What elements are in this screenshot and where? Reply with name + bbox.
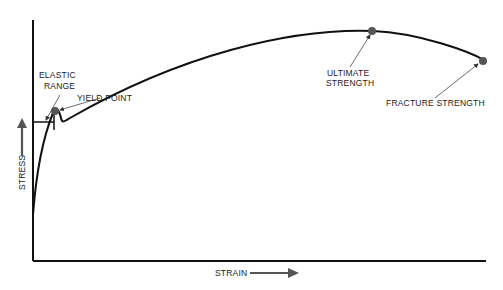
fracture-strength-arrow (435, 64, 478, 98)
y-axis-label-group: STRESS (17, 118, 27, 190)
yield-point-label: YIELD POINT (77, 93, 132, 103)
fracture-strength-marker (479, 57, 487, 65)
stress-strain-curve (33, 31, 484, 215)
ultimate-strength-marker (368, 27, 376, 35)
ultimate-strength-arrow (350, 35, 370, 67)
axes (33, 20, 486, 261)
ultimate-strength-label-line1: ULTIMATE (327, 68, 369, 78)
stress-arrow-icon (17, 118, 27, 128)
elastic-range-arrow (46, 95, 60, 120)
ultimate-strength-label-line2: STRENGTH (326, 78, 374, 88)
strain-arrow-icon (288, 268, 299, 278)
x-axis-label-group: STRAIN (215, 268, 299, 278)
y-axis-label: STRESS (17, 155, 27, 190)
x-axis-label: STRAIN (215, 268, 247, 278)
elastic-range-label-line1: ELASTIC (39, 70, 76, 80)
stress-strain-diagram: ELASTIC RANGE YIELD POINT ULTIMATE STREN… (0, 0, 503, 290)
fracture-strength-label: FRACTURE STRENGTH (386, 98, 485, 108)
elastic-range-label-line2: RANGE (44, 81, 75, 91)
